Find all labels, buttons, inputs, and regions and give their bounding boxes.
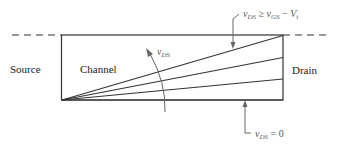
zero-leader-line bbox=[245, 104, 251, 133]
channel-diagram: Source Channel Drain vDS vDS ≥ vGS − Vt … bbox=[0, 0, 342, 148]
saturation-arrowhead-icon bbox=[231, 42, 236, 49]
zero-condition-label: vDS = 0 bbox=[255, 128, 284, 141]
sweep-label: vDS bbox=[157, 46, 171, 59]
channel-label: Channel bbox=[80, 63, 117, 75]
source-label: Source bbox=[10, 63, 41, 75]
drain-label: Drain bbox=[292, 64, 318, 76]
saturation-leader-line bbox=[233, 14, 239, 44]
sweep-arrowhead-icon bbox=[146, 48, 153, 57]
zero-arrowhead-icon bbox=[243, 100, 248, 107]
saturation-condition-label: vDS ≥ vGS − Vt bbox=[243, 8, 299, 21]
